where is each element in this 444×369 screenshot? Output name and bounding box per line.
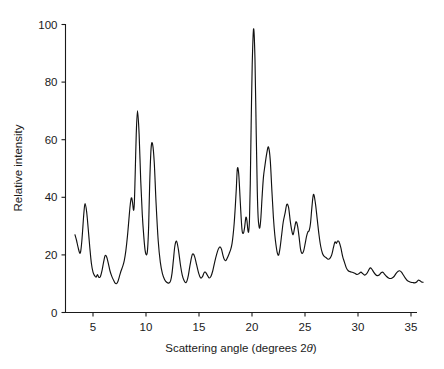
x-tick-group: 5101520253035	[90, 313, 418, 333]
x-axis-title: Scattering angle (degrees 2θ)	[165, 342, 317, 354]
x-tick-label: 35	[405, 321, 418, 333]
y-axis-title: Relative intensity	[12, 124, 24, 211]
y-tick-label: 0	[51, 307, 57, 319]
y-tick-label: 40	[45, 191, 58, 203]
x-tick-label: 20	[246, 321, 259, 333]
chart-canvas: 020406080100 5101520253035 Scattering an…	[0, 0, 444, 369]
y-tick-label: 80	[45, 76, 58, 88]
diffraction-curve	[75, 29, 423, 284]
x-tick-label: 10	[140, 321, 153, 333]
y-tick-label: 60	[45, 134, 58, 146]
x-tick-label: 25	[299, 321, 312, 333]
x-tick-label: 5	[90, 321, 96, 333]
y-tick-label: 20	[45, 249, 58, 261]
x-tick-label: 15	[193, 321, 206, 333]
xrd-diffractogram-figure: 020406080100 5101520253035 Scattering an…	[0, 0, 444, 369]
y-tick-label: 100	[38, 19, 57, 31]
y-tick-group: 020406080100	[38, 19, 65, 319]
x-tick-label: 30	[352, 321, 365, 333]
